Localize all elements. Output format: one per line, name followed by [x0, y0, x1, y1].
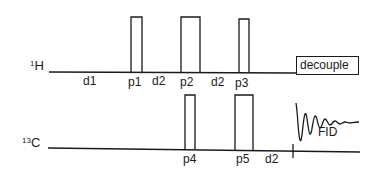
delay-d2-label: d2 [152, 75, 165, 87]
delay-d1-label: d1 [83, 75, 96, 87]
h-channel-label: 1H [30, 59, 44, 72]
delay-d2-label: d2 [211, 76, 224, 88]
pulse-p4 [185, 95, 195, 150]
pulse-p3-label: p3 [235, 77, 248, 89]
h-channel-baseline [49, 72, 296, 73]
pulse-p1-label: p1 [128, 76, 141, 88]
decouple-box: decouple [296, 56, 359, 75]
c-channel-label: 13C [22, 136, 40, 149]
pulse-p4-label: p4 [183, 153, 196, 165]
pulse-p3 [239, 19, 249, 73]
delay-d2-label: d2 [265, 153, 278, 165]
pulse-p2-label: p2 [180, 76, 193, 88]
c-channel-baseline [48, 148, 360, 152]
pulse-p5 [235, 95, 253, 150]
pulse-p1 [131, 17, 142, 72]
fid-label: FID [318, 126, 337, 138]
pulse-p5-label: p5 [236, 153, 249, 165]
pulse-p2 [181, 17, 200, 73]
